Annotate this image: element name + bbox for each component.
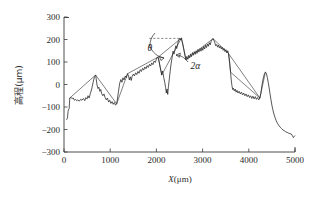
y-axis-title-cjk: 高程 <box>13 87 24 105</box>
y-axis-title-group: 高程(μm) <box>13 65 24 105</box>
y-tick-label: 100 <box>47 57 61 67</box>
x-tick-label: 1000 <box>101 155 120 165</box>
x-tick-label: 3000 <box>194 155 213 165</box>
x-tick-label: 0 <box>62 155 67 165</box>
x-axis-title: X(μm) <box>167 174 191 184</box>
y-tick-label: 0 <box>56 80 61 90</box>
x-tick-label: 5000 <box>286 155 305 165</box>
y-tick-label: 200 <box>47 35 61 45</box>
x-tick-label: 4000 <box>240 155 259 165</box>
y-tick-label: 300 <box>47 12 61 22</box>
y-tick-label: −100 <box>41 102 60 112</box>
y-axis-title: 高程(μm) <box>13 65 24 105</box>
chart-figure: −300−200−1000100200300 01000200030004000… <box>0 0 326 199</box>
figure-background <box>0 0 326 199</box>
y-tick-label: −200 <box>41 125 60 135</box>
y-tick-label: −300 <box>41 147 60 157</box>
two-alpha-annotation-label: 2α <box>191 61 202 71</box>
theta-annotation-label: θ <box>148 43 153 53</box>
y-axis-title-unit: (μm) <box>14 65 24 87</box>
chart-svg: −300−200−1000100200300 01000200030004000… <box>0 0 326 199</box>
x-tick-label: 2000 <box>147 155 166 165</box>
x-axis-title-unit: (μm) <box>174 174 192 184</box>
